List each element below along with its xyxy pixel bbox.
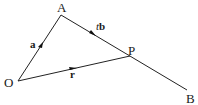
vector-label-a: a [30,38,36,50]
diagram-canvas: A O P B a tb r [0,0,198,105]
arrowhead-ap-icon [89,30,96,36]
segment-ab [61,15,187,90]
vector-diagram: A O P B a tb r [0,0,198,105]
point-label-p: P [128,43,135,58]
segment-oa [18,15,61,81]
vector-label-tb-vector: b [99,20,105,32]
vector-label-tb: tb [96,20,105,32]
point-label-a: A [57,0,67,15]
vector-label-r: r [70,68,75,80]
point-label-b: B [186,91,195,105]
arrowhead-oa-icon [38,42,43,48]
point-label-o: O [4,75,13,90]
